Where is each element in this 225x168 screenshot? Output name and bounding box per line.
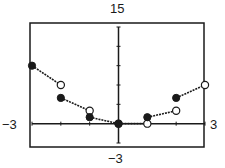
graph-plot bbox=[0, 0, 225, 168]
segment-line bbox=[176, 85, 205, 98]
open-endpoint bbox=[57, 81, 64, 88]
closed-endpoint bbox=[86, 114, 93, 121]
closed-endpoint bbox=[144, 114, 151, 121]
closed-endpoint bbox=[28, 62, 35, 69]
closed-endpoint bbox=[173, 94, 180, 101]
segment-line bbox=[32, 66, 61, 85]
open-endpoint bbox=[173, 107, 180, 114]
closed-endpoint bbox=[115, 120, 122, 127]
segment-line bbox=[61, 98, 90, 111]
closed-endpoint bbox=[57, 94, 64, 101]
open-endpoint bbox=[201, 81, 208, 88]
segment-line bbox=[147, 111, 176, 117]
segment-line bbox=[90, 117, 119, 123]
